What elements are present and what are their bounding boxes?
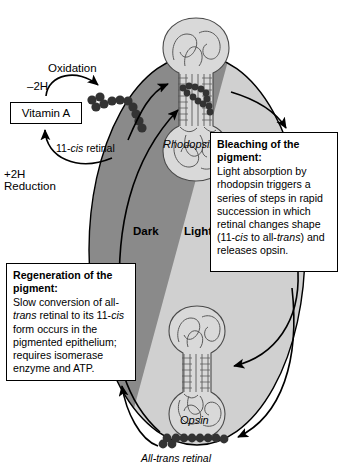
bleaching-heading: Bleaching of the pigment: — [217, 138, 332, 164]
regeneration-body-3: form occurs in the pigmented epithelium;… — [13, 323, 117, 374]
bleaching-italic-2: trans — [277, 231, 301, 243]
regeneration-italic-1: trans — [13, 309, 37, 321]
regeneration-body: Slow conversion of all-trans retinal to … — [13, 296, 130, 375]
vitamin-a-box: Vitamin A — [10, 102, 82, 124]
all-trans-retinal-molecule — [159, 434, 229, 449]
vitamin-a-label: Vitamin A — [22, 107, 70, 119]
eleven-cis-italic: cis — [70, 142, 83, 154]
bleaching-callout: Bleaching of the pigment: Light absorpti… — [210, 132, 338, 272]
regeneration-callout: Regeneration of the pigment: Slow conver… — [6, 263, 136, 381]
eleven-cis-suffix: retinal — [83, 142, 115, 154]
regeneration-heading: Regeneration of the pigment: — [13, 269, 130, 295]
light-zone-label: Light — [184, 225, 212, 238]
all-trans-retinal-label: All-trans retinal — [141, 452, 211, 464]
regeneration-italic-2: cis — [111, 309, 124, 321]
eleven-cis-retinal-label: 11-cis retinal — [56, 142, 115, 154]
oxidation-arrow — [46, 75, 98, 96]
eleven-cis-prefix: 11- — [56, 142, 70, 154]
bleaching-body-2: to all- — [248, 231, 277, 243]
all-trans-suffix: retinal — [180, 452, 212, 464]
visual-cycle-diagram: Oxidation –2H Vitamin A +2H Reduction 11… — [0, 0, 344, 470]
regeneration-body-1: Slow conversion of all- — [13, 296, 119, 308]
bleaching-italic-1: cis — [235, 231, 248, 243]
regeneration-body-2: retinal to its 11- — [37, 309, 112, 321]
minus-2h-label: –2H — [27, 80, 48, 93]
rhodopsin-label: Rhodopsin — [163, 138, 216, 151]
reduction-label: Reduction — [4, 180, 56, 193]
all-trans-italic: All-trans — [141, 452, 180, 464]
dark-zone-label: Dark — [133, 225, 159, 238]
opsin-label: Opsin — [180, 414, 209, 427]
oxidation-label: Oxidation — [48, 62, 97, 75]
bleaching-body: Light absorption by rhodopsin triggers a… — [217, 165, 332, 257]
